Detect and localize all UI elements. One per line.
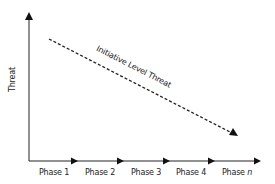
y-axis-arrow-icon: [25, 12, 33, 20]
phase-n-arrow-icon: [254, 158, 261, 165]
trend-line-arrow-icon: [229, 128, 238, 136]
diagram-canvas: [0, 0, 275, 184]
phase-4-label: Phase 4: [168, 168, 214, 177]
phase-3-label: Phase 3: [123, 168, 169, 177]
phase-3-arrow-icon: [163, 158, 170, 165]
phase-1-arrow-icon: [71, 158, 78, 165]
trend-line: [49, 39, 232, 133]
phase-2-arrow-icon: [117, 158, 124, 165]
phase-4-arrow-icon: [208, 158, 215, 165]
phase-2-label: Phase 2: [77, 168, 123, 177]
y-axis-label: Threat: [8, 67, 17, 92]
phase-n-suffix: n: [247, 168, 252, 177]
phase-n-label: Phase n: [214, 168, 260, 177]
phase-1-label: Phase 1: [31, 168, 77, 177]
phase-n-prefix: Phase: [222, 168, 247, 177]
